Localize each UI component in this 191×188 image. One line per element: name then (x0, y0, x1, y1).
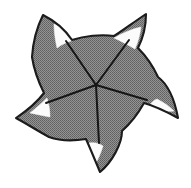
central-node (94, 83, 97, 86)
figure-container: Pentaradiate spinose specimen outline dr… (0, 0, 191, 188)
specimen-illustration (0, 0, 191, 188)
